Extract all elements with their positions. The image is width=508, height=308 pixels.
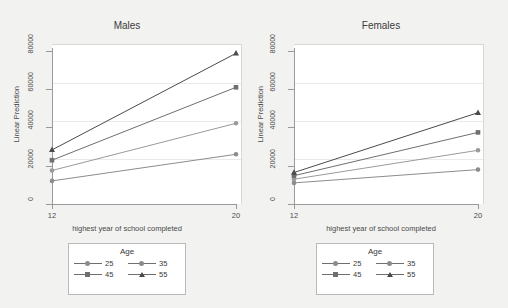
legend-label: 45 (353, 270, 361, 279)
legend-label: 25 (353, 259, 361, 268)
legend-label: 35 (159, 259, 167, 268)
legend-key-circle-icon (128, 260, 156, 268)
data-point (475, 109, 481, 115)
series-45 (50, 85, 239, 163)
legend-key-circle-icon (376, 260, 404, 268)
legend-males: Age 25 35 45 (68, 243, 186, 295)
legend-label: 45 (105, 270, 113, 279)
legend-key-square-icon (322, 271, 350, 279)
legend-label: 55 (407, 270, 415, 279)
data-point (234, 152, 239, 157)
legend-item-45[interactable]: 45 (74, 270, 126, 279)
legend-item-55[interactable]: 55 (376, 270, 428, 279)
legend-item-55[interactable]: 55 (128, 270, 180, 279)
series-55 (49, 50, 239, 152)
data-point (476, 167, 481, 172)
data-point (50, 179, 55, 184)
legend-key-square-icon (74, 271, 102, 279)
legend-females: Age 25 35 45 (316, 243, 434, 295)
data-point (234, 85, 239, 90)
panel-females: Females 80000 60000 40000 20000 0 Linear… (254, 0, 508, 308)
legend-title: Age (317, 247, 433, 256)
data-point (476, 130, 481, 135)
panel-males: Males 80000 60000 40000 20000 0 Linear P… (0, 0, 254, 308)
legend-key-triangle-icon (128, 271, 156, 279)
series-35 (50, 121, 239, 173)
legend-label: 25 (105, 259, 113, 268)
legend-key-circle-icon (74, 260, 102, 268)
figure-canvas: Males 80000 60000 40000 20000 0 Linear P… (0, 0, 508, 308)
legend-item-25[interactable]: 25 (74, 259, 126, 268)
data-point (233, 50, 239, 56)
data-point (476, 148, 481, 153)
legend-label: 55 (159, 270, 167, 279)
series-25 (50, 152, 239, 183)
legend-item-45[interactable]: 45 (322, 270, 374, 279)
data-point (50, 158, 55, 163)
legend-item-25[interactable]: 25 (322, 259, 374, 268)
data-point (234, 121, 239, 126)
legend-label: 35 (407, 259, 415, 268)
legend-item-35[interactable]: 35 (376, 259, 428, 268)
legend-title: Age (69, 247, 185, 256)
data-point (50, 168, 55, 173)
legend-key-triangle-icon (376, 271, 404, 279)
legend-item-35[interactable]: 35 (128, 259, 180, 268)
legend-key-circle-icon (322, 260, 350, 268)
